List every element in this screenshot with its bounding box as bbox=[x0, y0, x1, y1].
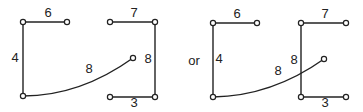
node bbox=[298, 20, 303, 25]
edge-weight-label: 3 bbox=[321, 95, 328, 110]
edge-c-d-curved bbox=[23, 58, 133, 96]
left-graph: 6 4 8 7 8 3 bbox=[11, 5, 157, 110]
edge-c-d-curved bbox=[213, 59, 324, 97]
node bbox=[20, 19, 25, 24]
node bbox=[152, 19, 157, 24]
edge-weight-label: 8 bbox=[85, 61, 92, 76]
node bbox=[107, 94, 112, 99]
edge-weight-label: 8 bbox=[274, 63, 281, 78]
node bbox=[343, 20, 348, 25]
edge-weight-label: 8 bbox=[290, 52, 297, 67]
node bbox=[64, 19, 69, 24]
edge-weight-label: 7 bbox=[321, 6, 328, 21]
right-graph: 6 4 8 7 8 3 bbox=[210, 6, 348, 110]
node bbox=[321, 56, 326, 61]
edge-weight-label: 8 bbox=[144, 51, 151, 66]
node bbox=[152, 94, 157, 99]
edge-weight-label: 3 bbox=[130, 95, 137, 110]
edge-weight-label: 6 bbox=[233, 6, 240, 21]
edge-weight-label: 4 bbox=[11, 50, 18, 65]
node bbox=[210, 94, 215, 99]
edge-weight-label: 7 bbox=[130, 5, 137, 20]
node bbox=[130, 55, 135, 60]
or-separator: or bbox=[188, 53, 200, 68]
node bbox=[210, 20, 215, 25]
edge-weight-label: 6 bbox=[44, 5, 51, 20]
node bbox=[20, 93, 25, 98]
graph-comparison-diagram: 6 4 8 7 8 3 or 6 4 8 7 8 3 bbox=[0, 0, 363, 112]
node bbox=[343, 94, 348, 99]
node bbox=[254, 20, 259, 25]
node bbox=[298, 94, 303, 99]
edge-weight-label: 4 bbox=[215, 51, 222, 66]
node bbox=[107, 19, 112, 24]
